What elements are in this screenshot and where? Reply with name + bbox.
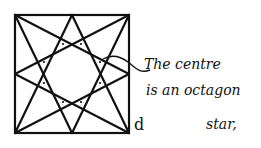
annotation-line-1: The centre bbox=[144, 56, 221, 72]
corner-label: d bbox=[134, 115, 144, 134]
annotation-line-2: is an octagon bbox=[146, 82, 241, 98]
outer-square bbox=[15, 15, 129, 133]
annotation-line-3: star, bbox=[206, 116, 237, 132]
